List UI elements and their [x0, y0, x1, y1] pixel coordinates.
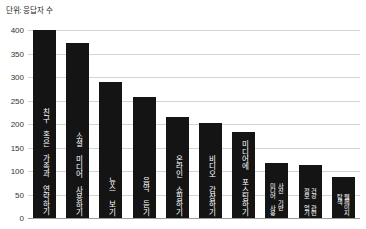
bar-slot: 소셜 미디어에 포스팅하기 — [227, 30, 260, 218]
bar-slot: 비디오 감상하기 — [194, 30, 227, 218]
y-axis-tick-label: 50 — [15, 190, 24, 199]
y-axis-tick-label: 0 — [20, 214, 24, 223]
bar-slot: 웹페이지 탐색 — [327, 30, 360, 218]
gridline — [28, 218, 360, 219]
y-axis-tick-label: 200 — [11, 120, 24, 129]
y-axis-tick-label: 250 — [11, 96, 24, 105]
bar-slot: 친구 혹은 가족과 연락하기 — [28, 30, 61, 218]
bar-slot: 소셜 미디어 사용하기 — [61, 30, 94, 218]
bar[interactable]: 소셜 미디어에 포스팅하기 — [232, 132, 255, 218]
bar-category-label: 친구 혹은 가족과 연락하기 — [41, 108, 49, 218]
bar[interactable]: 소셜 미디어 사용하기 — [66, 43, 89, 218]
bar-series: 친구 혹은 가족과 연락하기소셜 미디어 사용하기뉴스 보기음악 듣기온라인 쇼… — [28, 30, 360, 218]
bar-category-label: 웹페이지 탐색 — [336, 194, 350, 218]
bar[interactable]: 뉴스 보기 — [99, 82, 122, 218]
bar-slot: 온라인 쇼핑하기 — [161, 30, 194, 218]
bar-slot: 건강 관련 정보 얻기 — [294, 30, 327, 218]
y-axis-tick-label: 300 — [11, 73, 24, 82]
bar-slot: 사진 기반 미디어 사용 — [260, 30, 293, 218]
plot-area: 400350300250200150100500 친구 혹은 가족과 연락하기소… — [28, 30, 360, 218]
bar[interactable]: 음악 듣기 — [133, 97, 156, 218]
bar[interactable]: 비디오 감상하기 — [199, 123, 222, 218]
bar[interactable]: 온라인 쇼핑하기 — [166, 117, 189, 218]
bar-category-label: 음악 듣기 — [140, 177, 148, 218]
bar-category-label: 소셜 미디어에 포스팅하기 — [240, 132, 248, 218]
unit-caption: 단위: 응답자 수 — [6, 4, 52, 15]
bar-slot: 뉴스 보기 — [94, 30, 127, 218]
bar[interactable]: 웹페이지 탐색 — [332, 177, 355, 218]
bar-category-label: 소셜 미디어 사용하기 — [74, 132, 82, 218]
y-axis-tick-label: 150 — [11, 143, 24, 152]
bar-category-label: 사진 기반 미디어 사용 — [270, 183, 284, 218]
bar-category-label: 건강 관련 정보 얻기 — [303, 188, 317, 218]
y-axis-tick-label: 350 — [11, 49, 24, 58]
bar[interactable]: 사진 기반 미디어 사용 — [265, 163, 288, 218]
bar-category-label: 비디오 감상하기 — [207, 155, 215, 218]
bar-category-label: 뉴스 보기 — [107, 177, 115, 218]
bar[interactable]: 건강 관련 정보 얻기 — [299, 165, 322, 218]
bar-category-label: 온라인 쇼핑하기 — [173, 155, 181, 218]
y-axis-tick-label: 400 — [11, 26, 24, 35]
y-axis-tick-label: 100 — [11, 167, 24, 176]
bar[interactable]: 친구 혹은 가족과 연락하기 — [33, 30, 56, 218]
bar-slot: 음악 듣기 — [128, 30, 161, 218]
bar-chart: 단위: 응답자 수 400350300250200150100500 친구 혹은… — [0, 0, 366, 229]
